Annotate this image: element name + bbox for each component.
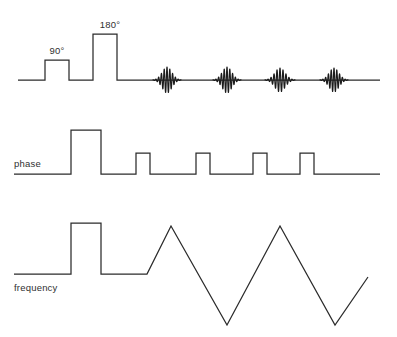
pulse-sequence-svg: 90° 180° phase frequency [0, 0, 397, 337]
frequency-channel-label: frequency [14, 282, 58, 293]
frequency-channel: frequency [14, 223, 368, 325]
pulse-sequence-diagram: 90° 180° phase frequency [0, 0, 397, 337]
phase-waveform [14, 130, 380, 174]
rf-channel: 90° 180° [18, 19, 380, 92]
pulse-label-90deg: 90° [50, 45, 65, 56]
phase-channel-label: phase [14, 158, 41, 169]
frequency-waveform [14, 223, 368, 325]
phase-channel: phase [14, 130, 380, 174]
rf-waveform [18, 34, 380, 80]
pulse-label-180deg: 180° [100, 19, 120, 30]
